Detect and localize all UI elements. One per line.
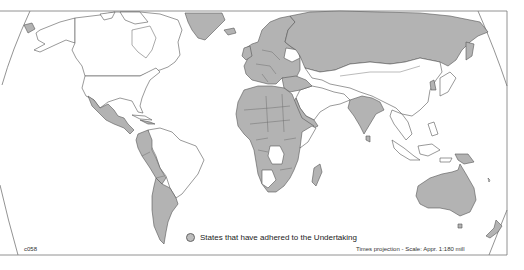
south-america	[136, 128, 204, 244]
legend-label: States that have adhered to the Undertak…	[200, 233, 357, 242]
legend-shaded-swatch-icon	[186, 233, 195, 242]
oceania	[416, 154, 502, 238]
russia	[285, 11, 488, 72]
chukotka-edge	[24, 23, 35, 33]
world-map: States that have adhered to the Undertak…	[0, 0, 524, 270]
india	[348, 96, 384, 134]
scale-label: Times projection - Scale: Appr. 1:180 mi…	[356, 246, 465, 252]
map-canvas	[0, 0, 524, 270]
greenland	[185, 13, 225, 40]
sri-lanka	[366, 136, 370, 142]
kamchatka	[466, 42, 474, 60]
map-code: c058	[24, 246, 37, 252]
iceland	[224, 28, 236, 35]
projection-edge-right-upper	[478, 11, 507, 86]
projection-edge-left-lower	[0, 185, 18, 255]
projection-edge-left-upper	[2, 11, 30, 85]
